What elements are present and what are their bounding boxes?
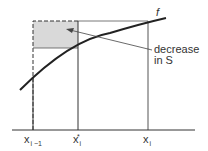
diagram-canvas <box>0 0 208 151</box>
annotation-line-2: in S <box>154 55 199 66</box>
x-label-i: xi <box>143 134 151 146</box>
annotation-label: decrease in S <box>154 44 199 66</box>
x-label-i-star: xi* <box>73 134 80 146</box>
function-label: f <box>156 7 159 18</box>
x-label-i-minus-1: xi −1 <box>24 134 42 146</box>
shaded-decrease-region <box>33 21 78 48</box>
